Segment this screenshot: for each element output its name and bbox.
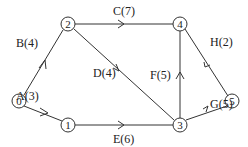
edge-label-f: F(5) [150, 69, 171, 81]
edge-label-a: A(3) [16, 90, 39, 102]
node-4-label: 4 [173, 17, 187, 31]
network-diagram: 0 1 2 3 4 5 B(4) A(3) C(7) D(4) E(6) F(5… [0, 0, 248, 147]
edge-label-h: H(2) [210, 36, 233, 48]
edge-label-c: C(7) [113, 5, 135, 17]
node-1-label: 1 [61, 118, 75, 132]
edge-label-g: G(5) [210, 98, 233, 110]
edge-label-e: E(6) [113, 133, 134, 145]
node-2-label: 2 [61, 17, 75, 31]
edge-label-b: B(4) [16, 37, 38, 49]
node-3-label: 3 [173, 118, 187, 132]
diagram-edges [0, 0, 248, 147]
edge-label-d: D(4) [93, 67, 116, 79]
edge-0-1 [24, 106, 62, 121]
arrow-icon-g [203, 106, 208, 112]
